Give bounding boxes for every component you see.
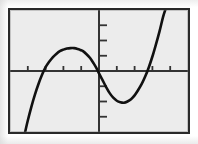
graph-frame: [8, 8, 190, 134]
page-edge-shading-left: [0, 0, 8, 144]
coordinate-plane: [10, 10, 188, 132]
screenshot-root: [0, 0, 198, 144]
page-edge-shading-top: [0, 0, 198, 7]
page-edge-shading-bottom: [0, 136, 198, 144]
